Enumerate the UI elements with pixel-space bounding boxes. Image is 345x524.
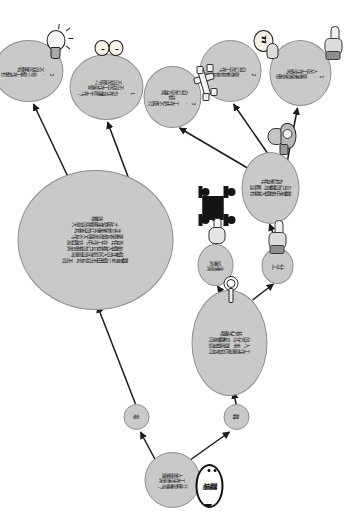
broken-plane-icon [191,64,217,98]
node-core-label: 職場中每個人都有 自己的職責，應該 負起責任。 [248,177,292,199]
node-branch-right-label: 場 [132,412,141,422]
desk-lamp-icon [267,122,297,156]
node-mid[interactable]: 工作環境所包含的 人、事、物與相處 的方式，是職場的 核心議題。 [191,290,267,396]
two-heads-icon [95,40,123,64]
node-branch-left[interactable]: 職 [223,404,249,430]
rotated-diagram-group: 什麼是職場？ 工作環境與 人際關係 職場 職 場 工作環境所包含的 人、事、物與… [0,0,345,524]
node-big[interactable]: 職場是一個由不同背景、不同 個性的人所組成的環境， 每個人都有自己的角色與 責任… [17,170,173,310]
node-core[interactable]: 職場中每個人都有 自己的職責，應該 負起責任。 [241,152,299,224]
node-mid-label: 工作環境所包含的 人、事、物與相處 的方式，是職場的 核心議題。 [207,329,251,357]
face-thinking-icon [253,30,275,54]
speech-balloon: 職場 [195,464,223,508]
light-bulb-icon [43,26,69,60]
hand-icon [269,220,287,250]
key-hook-icon [223,276,239,302]
balloon-dots-icon [204,469,216,472]
balloon-text: 職場 [202,482,216,489]
pointing-hand-icon [209,218,225,244]
node-root[interactable]: 什麼是職場？ 工作環境與 人際關係 [144,452,200,508]
node-right-2-label: 2. 每一個工作都有 不同的挑戰。 [0,63,57,79]
node-item-1-label: 1. 要懂得尊重他 人的工作成果。 [274,65,326,81]
node-right-1-label: 1. 您作過哪些工作？ 不同的工作需要 不同的能力。 [75,76,137,97]
node-branch-right[interactable]: 場 [123,404,149,430]
diagram-canvas: 什麼是職場？ 工作環境與 人際關係 職場 職 場 工作環境所包含的 人、事、物與… [0,0,345,524]
node-branch-left-label: 職 [232,412,241,422]
node-division-of-labour-label: 分工 [269,261,285,272]
node-root-label: 什麼是職場？ 工作環境與 人際關係 [155,469,189,490]
pointing-hand-icon [325,26,343,56]
node-big-label: 職場是一個由不同背景、不同 個性的人所組成的環境， 每個人都有自己的角色與 責任… [61,214,130,266]
node-communication-label: 溝通與 協調 [206,257,225,273]
